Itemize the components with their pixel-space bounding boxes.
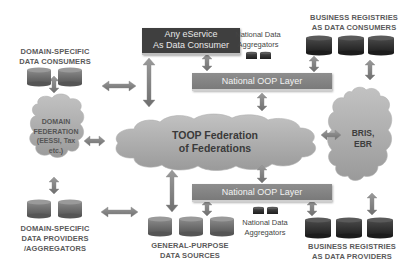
oop-top-label: National OOP Layer — [222, 76, 302, 86]
database-icon — [267, 207, 278, 214]
arrow-consumers-eservice — [102, 81, 136, 91]
left-cloud-line3: (EESSI, Tax — [28, 136, 84, 146]
label-line: DOMAIN-SPECIFIC — [8, 47, 102, 57]
db-group-br-consumers — [306, 36, 394, 56]
database-icon — [367, 218, 393, 239]
arrow-eservice-oop — [202, 54, 212, 71]
db-group-general-sources — [148, 217, 234, 237]
domain-providers-label: DOMAIN-SPECIFIC DATA PROVIDERS /AGGREGAT… — [8, 224, 102, 254]
database-icon — [246, 52, 257, 59]
eservice-line2: As Data Consumer — [142, 40, 240, 51]
database-icon — [179, 217, 203, 237]
aggregators-top-label: National Data Aggregators — [228, 30, 288, 50]
center-cloud-line2: of Federations — [150, 142, 280, 155]
label-line: /AGGREGATORS — [8, 244, 102, 254]
db-group-aggregators-top — [246, 52, 271, 59]
database-icon — [27, 68, 51, 87]
database-icon — [253, 207, 264, 214]
label-line: Aggregators — [235, 228, 295, 238]
label-line: DATA CONSUMERS — [8, 57, 102, 67]
center-cloud-line1: TOOP Federation — [150, 129, 280, 142]
arrow-federation-cloud — [84, 136, 105, 146]
br-providers-label: BUSINESS REGISTRIES AS DATA PROVIDERS — [300, 242, 404, 262]
right-cloud-line1: BRIS, — [338, 128, 388, 139]
left-cloud-line1: DOMAIN — [28, 117, 84, 127]
database-icon — [27, 200, 51, 219]
arrow-oop-cloud-top — [257, 93, 267, 111]
arrow-brconsumers-oop — [309, 56, 319, 72]
database-icon — [260, 52, 271, 59]
database-icon — [305, 218, 331, 239]
label-line: BUSINESS REGISTRIES — [304, 13, 404, 23]
label-line: BUSINESS REGISTRIES — [300, 242, 404, 252]
general-sources-label: GENERAL-PURPOSE DATA SOURCES — [140, 241, 240, 261]
arrow-federation-providers — [49, 177, 59, 194]
label-line: National Data — [235, 218, 295, 228]
label-line: AS DATA PROVIDERS — [300, 252, 404, 262]
database-icon — [58, 68, 82, 87]
label-line: National Data — [228, 30, 288, 40]
db-group-br-providers — [305, 218, 393, 239]
label-line: GENERAL-PURPOSE — [140, 241, 240, 251]
database-icon — [306, 36, 332, 56]
database-icon — [336, 218, 362, 239]
db-group-domain-providers — [27, 200, 82, 219]
national-oop-layer-top: National OOP Layer — [192, 73, 332, 91]
oop-bottom-label: National OOP Layer — [222, 187, 302, 197]
arrow-eservice-cloud — [143, 58, 155, 107]
arrow-bris-brproviders — [367, 193, 377, 215]
aggregators-bottom-label: National Data Aggregators — [235, 218, 295, 238]
eservice-line1: Any eService — [142, 29, 240, 40]
database-icon — [148, 217, 172, 237]
arrow-brconsumers-bris — [365, 60, 375, 80]
domain-consumers-label: DOMAIN-SPECIFIC DATA CONSUMERS — [8, 47, 102, 67]
left-cloud-line2: FEDERATION — [28, 127, 84, 137]
label-line: Aggregators — [228, 40, 288, 50]
eservice-box: Any eService As Data Consumer — [142, 28, 240, 55]
database-icon — [368, 36, 394, 56]
center-cloud-text: TOOP Federation of Federations — [150, 129, 280, 155]
database-icon — [58, 200, 82, 219]
arrow-cloud-sources — [166, 170, 178, 212]
right-cloud-text: BRIS, EBR — [338, 128, 388, 150]
arrow-oop-sources — [202, 200, 212, 216]
label-line: DOMAIN-SPECIFIC — [8, 224, 102, 234]
arrow-oop-brproviders — [307, 200, 317, 216]
label-line: DATA PROVIDERS — [8, 234, 102, 244]
national-oop-layer-bottom: National OOP Layer — [192, 184, 332, 202]
left-cloud-text: DOMAIN FEDERATION (EESSI, Tax etc.) — [28, 117, 84, 155]
left-cloud-line4: etc.) — [28, 146, 84, 156]
db-group-aggregators-bottom — [253, 207, 278, 214]
database-icon — [210, 217, 234, 237]
label-line: DATA SOURCES — [140, 251, 240, 261]
arrow-providers-sources — [101, 207, 138, 217]
database-icon — [338, 36, 364, 56]
br-consumers-label: BUSINESS REGISTRIES AS DATA CONSUMERS — [304, 13, 404, 33]
right-cloud-line2: EBR — [338, 139, 388, 150]
label-line: AS DATA CONSUMERS — [304, 23, 404, 33]
